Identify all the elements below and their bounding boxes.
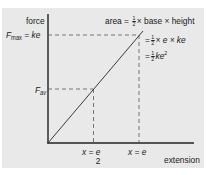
fav-subscript: av xyxy=(40,89,46,96)
x-half-lhs: x = xyxy=(82,146,93,157)
half-fraction: 12 xyxy=(132,16,136,27)
area-equation-line2: =12× e × ke xyxy=(145,35,186,46)
half-fraction: 12 xyxy=(151,35,155,46)
fav-label: Fav xyxy=(35,85,46,97)
fmax-subscript: max xyxy=(11,34,22,41)
eq-superscript: 2 xyxy=(164,50,167,56)
fmax-equals: = ke xyxy=(24,29,40,40)
area-suffix: × base × height xyxy=(137,15,195,26)
y-axis-label: force xyxy=(26,16,45,26)
x-axis-label: extension xyxy=(164,155,200,165)
area-equation-line1: area = 12× base × height xyxy=(105,16,194,27)
area-prefix: area = xyxy=(105,15,129,26)
fmax-label: Fmax = ke xyxy=(6,30,40,42)
eq-suffix: ke xyxy=(155,50,164,61)
force-extension-line xyxy=(48,31,143,143)
half-fraction: 12 xyxy=(151,51,155,62)
area-equation-line3: =12ke2 xyxy=(145,50,167,62)
eq-prefix: = xyxy=(145,34,150,45)
x-full-label: x = e xyxy=(128,147,146,157)
x-half-den: 2 xyxy=(96,156,101,165)
eq-prefix: = xyxy=(145,50,150,61)
eq-suffix: × e × ke xyxy=(155,34,185,45)
x-half-label: x = e 2 xyxy=(82,147,100,165)
